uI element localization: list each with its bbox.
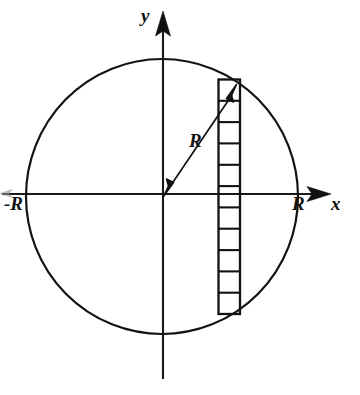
strip-rungs <box>219 101 241 293</box>
figure-canvas: y x R -R R <box>0 0 360 395</box>
figure-drawing <box>0 0 360 395</box>
x-intercept-label-negative: -R <box>4 194 23 213</box>
radius-label: R <box>189 131 202 150</box>
x-axis-label: x <box>331 194 341 213</box>
radius-arrowhead-outer <box>227 85 237 103</box>
vertical-strip <box>219 80 241 315</box>
x-intercept-label-positive: R <box>292 194 305 213</box>
y-axis-label: y <box>141 6 149 25</box>
